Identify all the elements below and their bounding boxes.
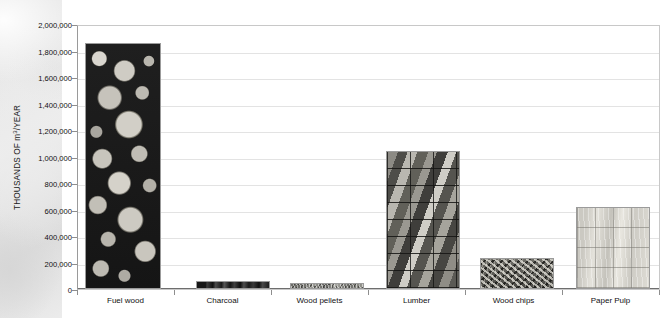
bar-charcoal[interactable] bbox=[196, 281, 270, 289]
gridline-600000 bbox=[78, 212, 659, 213]
gridline-1000000 bbox=[78, 159, 659, 160]
gridline-1600000 bbox=[78, 79, 659, 80]
x-axis-label-wood-pellets: Wood pellets bbox=[271, 296, 368, 305]
bar-fill-lumber bbox=[387, 152, 459, 288]
x-axis-label-lumber: Lumber bbox=[368, 296, 465, 305]
gridline-800000 bbox=[78, 185, 659, 186]
gridline-200000 bbox=[78, 265, 659, 266]
y-tick-label-1400000: 1,400,000 bbox=[12, 100, 72, 109]
bar-fill-wood-chips bbox=[481, 259, 553, 288]
y-tick-label-400000: 400,000 bbox=[12, 233, 72, 242]
x-axis-label-paper-pulp: Paper Pulp bbox=[562, 296, 659, 305]
plot-area bbox=[77, 25, 660, 290]
x-tick-mark-2 bbox=[271, 290, 272, 295]
x-axis-label-charcoal: Charcoal bbox=[174, 296, 271, 305]
bar-wood-pellets[interactable] bbox=[290, 283, 364, 289]
y-tick-label-1600000: 1,600,000 bbox=[12, 74, 72, 83]
bar-fill-paper-pulp bbox=[577, 208, 649, 288]
x-axis-label-wood-chips: Wood chips bbox=[465, 296, 562, 305]
bar-fuel-wood[interactable] bbox=[85, 43, 161, 289]
y-tick-label-800000: 800,000 bbox=[12, 180, 72, 189]
y-tick-label-600000: 600,000 bbox=[12, 206, 72, 215]
y-axis-title-prefix: THOUSANDS OF m bbox=[13, 134, 22, 210]
bar-lumber[interactable] bbox=[386, 151, 460, 289]
gridline-1200000 bbox=[78, 132, 659, 133]
y-tick-label-2000000: 2,000,000 bbox=[12, 21, 72, 30]
axis-baseline bbox=[78, 288, 659, 289]
bar-wood-chips[interactable] bbox=[480, 258, 554, 289]
x-tick-mark-6 bbox=[659, 290, 660, 295]
y-tick-label-200000: 200,000 bbox=[12, 259, 72, 268]
y-tick-label-1200000: 1,200,000 bbox=[12, 127, 72, 136]
gridline-1800000 bbox=[78, 53, 659, 54]
x-tick-mark-5 bbox=[562, 290, 563, 295]
x-tick-mark-1 bbox=[174, 290, 175, 295]
bar-paper-pulp[interactable] bbox=[576, 207, 650, 289]
x-tick-mark-4 bbox=[465, 290, 466, 295]
y-tick-label-0: 0 bbox=[12, 286, 72, 295]
x-tick-mark-3 bbox=[368, 290, 369, 295]
x-tick-mark-0 bbox=[77, 290, 78, 295]
gridline-400000 bbox=[78, 238, 659, 239]
bar-fill-charcoal bbox=[197, 282, 269, 288]
bar-fill-fuel-wood bbox=[86, 44, 160, 288]
y-tick-label-1000000: 1,000,000 bbox=[12, 153, 72, 162]
bar-chart: THOUSANDS OF m3/YEAR 2,000,000 1,800,000… bbox=[0, 0, 669, 318]
x-axis-label-fuel-wood: Fuel wood bbox=[77, 296, 174, 305]
bar-fill-wood-pellets bbox=[291, 284, 363, 288]
gridline-1400000 bbox=[78, 106, 659, 107]
y-tick-label-1800000: 1,800,000 bbox=[12, 47, 72, 56]
